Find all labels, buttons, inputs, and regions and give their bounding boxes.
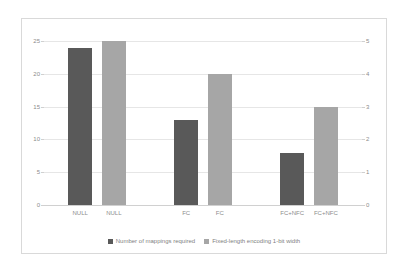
category-label: FC: [216, 210, 224, 216]
tick-label-right-0: 0: [366, 202, 369, 208]
bar-FC-fixed-length: [208, 74, 232, 205]
bar-FC+NFC-mappings: [280, 153, 304, 205]
category-label: FC+NFC: [280, 210, 304, 216]
tick-mark-right-3: [362, 107, 365, 108]
legend-swatch-icon: [204, 239, 209, 244]
tick-label-left-25: 25: [33, 38, 40, 44]
legend-item-fixed-length[interactable]: Fixed-length encoding 1-bit width: [204, 238, 300, 244]
category-label: NULL: [106, 210, 121, 216]
tick-mark-right-0: [362, 205, 365, 206]
axis-baseline: [44, 205, 362, 206]
tick-label-right-1: 1: [366, 169, 369, 175]
bar-NULL-fixed-length: [102, 41, 126, 205]
tick-mark-right-5: [362, 41, 365, 42]
tick-label-left-15: 15: [33, 104, 40, 110]
category-label: FC: [182, 210, 190, 216]
tick-mark-right-2: [362, 139, 365, 140]
tick-mark-right-1: [362, 172, 365, 173]
bars-layer: [44, 41, 362, 205]
tick-label-left-10: 10: [33, 136, 40, 142]
tick-mark-left-0: [41, 205, 44, 206]
bar-FC-mappings: [174, 120, 198, 205]
tick-mark-right-4: [362, 74, 365, 75]
bar-FC+NFC-fixed-length: [314, 107, 338, 205]
tick-label-right-4: 4: [366, 71, 369, 77]
tick-label-left-0: 0: [37, 202, 40, 208]
category-label: FC+NFC: [314, 210, 338, 216]
tick-label-right-3: 3: [366, 104, 369, 110]
legend-label: Fixed-length encoding 1-bit width: [212, 238, 300, 244]
plot-area: 25 20 15 10 5 0 5 4 3 2 1 0 NULLNULLFCFC…: [44, 41, 362, 205]
category-label: NULL: [72, 210, 87, 216]
tick-label-right-5: 5: [366, 38, 369, 44]
tick-label-left-5: 5: [37, 169, 40, 175]
legend-label: Number of mappings required: [116, 238, 195, 244]
legend-swatch-icon: [108, 239, 113, 244]
tick-label-left-20: 20: [33, 71, 40, 77]
tick-label-right-2: 2: [366, 136, 369, 142]
chart-container: 25 20 15 10 5 0 5 4 3 2 1 0 NULLNULLFCFC…: [21, 18, 387, 254]
legend-item-mappings[interactable]: Number of mappings required: [108, 238, 195, 244]
bar-NULL-mappings: [68, 48, 92, 205]
chart-legend: Number of mappings required Fixed-length…: [22, 238, 386, 244]
